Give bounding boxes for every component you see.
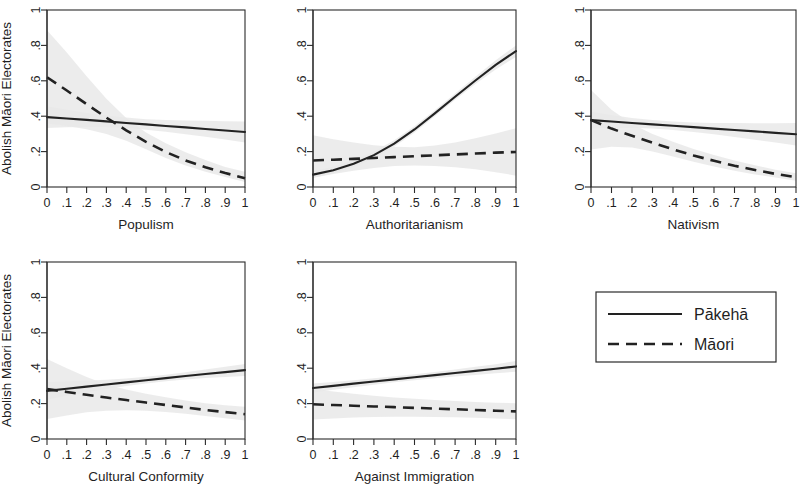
x-tick-label: .5 — [409, 448, 419, 462]
x-tick-label: .3 — [647, 196, 657, 210]
x-tick-label: .6 — [161, 196, 171, 210]
x-tick-label: .3 — [101, 448, 111, 462]
x-tick-label: .5 — [141, 196, 151, 210]
x-tick-label: .6 — [161, 448, 171, 462]
y-tick-label: .6 — [573, 76, 587, 86]
x-tick-label: .2 — [627, 196, 637, 210]
y-tick-label: .8 — [295, 292, 309, 302]
y-tick-label: 1 — [295, 6, 309, 13]
y-tick-label: .2 — [29, 146, 43, 156]
x-tick-label: .4 — [389, 196, 399, 210]
y-tick-label: .6 — [29, 328, 43, 338]
x-tick-label: .2 — [81, 448, 91, 462]
x-tick-label: .4 — [389, 448, 399, 462]
x-tick-label: 1 — [513, 448, 520, 462]
x-tick-label: .6 — [430, 448, 440, 462]
y-tick-label: 1 — [295, 258, 309, 265]
x-tick-label: .4 — [121, 196, 131, 210]
y-tick-label: .8 — [29, 292, 43, 302]
x-tick-label: 0 — [44, 196, 51, 210]
y-tick-label: 1 — [29, 258, 43, 265]
y-tick-label: .6 — [295, 328, 309, 338]
x-tick-label: .7 — [180, 196, 190, 210]
figure-panel-grid: 0.2.4.6.810.1.2.3.4.5.6.7.8.91PopulismAb… — [0, 0, 803, 499]
x-axis-title: Nativism — [668, 217, 720, 232]
y-tick-label: 0 — [295, 435, 309, 442]
x-tick-label: .7 — [450, 448, 460, 462]
y-tick-label: 0 — [29, 183, 43, 190]
y-tick-label: .4 — [573, 111, 587, 121]
x-axis-title: Against Immigration — [355, 469, 474, 484]
y-tick-label: .2 — [29, 398, 43, 408]
x-tick-label: 0 — [310, 448, 317, 462]
legend-label-māori: Māori — [694, 336, 734, 353]
y-tick-label: .4 — [295, 363, 309, 373]
x-tick-label: .2 — [348, 448, 358, 462]
x-axis-title: Authoritarianism — [366, 217, 464, 232]
chart-legend: PākehāMāori — [596, 292, 776, 362]
y-axis-title: Abolish Māori Electorates — [0, 22, 14, 175]
x-tick-label: .4 — [668, 196, 678, 210]
x-tick-label: .7 — [729, 196, 739, 210]
y-tick-label: .8 — [573, 40, 587, 50]
x-tick-label: .9 — [220, 448, 230, 462]
x-tick-label: .1 — [328, 196, 338, 210]
y-tick-label: 1 — [573, 6, 587, 13]
x-tick-label: .3 — [101, 196, 111, 210]
x-tick-label: .7 — [450, 196, 460, 210]
y-tick-label: .2 — [573, 146, 587, 156]
x-tick-label: .7 — [180, 448, 190, 462]
x-tick-label: .9 — [220, 196, 230, 210]
y-tick-label: .2 — [295, 398, 309, 408]
y-tick-label: 0 — [573, 183, 587, 190]
x-tick-label: .5 — [141, 448, 151, 462]
x-tick-label: .8 — [200, 448, 210, 462]
x-tick-label: .9 — [490, 448, 500, 462]
y-tick-label: .2 — [295, 146, 309, 156]
y-tick-label: .8 — [295, 40, 309, 50]
x-tick-label: 0 — [44, 448, 51, 462]
legend-box — [596, 292, 776, 362]
x-tick-label: 1 — [242, 448, 249, 462]
y-tick-label: .4 — [29, 111, 43, 121]
x-tick-label: .5 — [409, 196, 419, 210]
y-tick-label: 0 — [29, 435, 43, 442]
legend-label-pākehā: Pākehā — [694, 306, 748, 323]
x-tick-label: 0 — [588, 196, 595, 210]
chart-canvas: 0.2.4.6.810.1.2.3.4.5.6.7.8.91PopulismAb… — [0, 0, 803, 499]
x-tick-label: .1 — [62, 196, 72, 210]
y-tick-label: 0 — [295, 183, 309, 190]
x-tick-label: .5 — [688, 196, 698, 210]
x-tick-label: 1 — [242, 196, 249, 210]
x-tick-label: .8 — [200, 196, 210, 210]
y-tick-label: .6 — [29, 76, 43, 86]
x-tick-label: 1 — [513, 196, 520, 210]
x-tick-label: .9 — [490, 196, 500, 210]
x-tick-label: .9 — [770, 196, 780, 210]
y-tick-label: .4 — [295, 111, 309, 121]
x-tick-label: .1 — [606, 196, 616, 210]
x-axis-title: Cultural Conformity — [88, 469, 204, 484]
y-tick-label: 1 — [29, 6, 43, 13]
x-tick-label: 1 — [793, 196, 800, 210]
x-tick-label: .8 — [750, 196, 760, 210]
x-tick-label: .2 — [81, 196, 91, 210]
x-tick-label: .8 — [470, 196, 480, 210]
y-axis-title: Abolish Māori Electorates — [0, 274, 14, 427]
x-tick-label: .8 — [470, 448, 480, 462]
y-tick-label: .8 — [29, 40, 43, 50]
x-tick-label: .6 — [430, 196, 440, 210]
x-tick-label: .2 — [348, 196, 358, 210]
x-tick-label: .3 — [369, 196, 379, 210]
x-tick-label: .1 — [328, 448, 338, 462]
x-axis-title: Populism — [118, 217, 174, 232]
x-tick-label: .4 — [121, 448, 131, 462]
y-tick-label: .4 — [29, 363, 43, 373]
x-tick-label: .1 — [62, 448, 72, 462]
y-tick-label: .6 — [295, 76, 309, 86]
x-tick-label: .3 — [369, 448, 379, 462]
x-tick-label: .6 — [709, 196, 719, 210]
x-tick-label: 0 — [310, 196, 317, 210]
